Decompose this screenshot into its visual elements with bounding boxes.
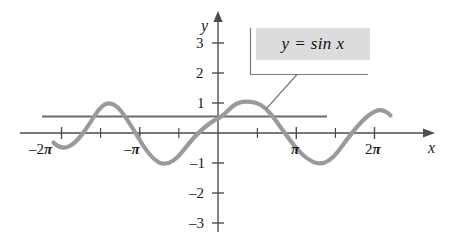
y-tick-label-3: 3 [196, 36, 204, 51]
y-axis-label: y [201, 18, 208, 34]
y-tick-label-minus-3: –3 [189, 216, 204, 231]
x-tick-label-2pi: 2π [365, 142, 381, 157]
equation-callout-text: y = sin x [282, 34, 345, 54]
equation-callout-box: y = sin x [256, 28, 370, 60]
x-tick-minus-2pi-symbol: π [44, 141, 52, 157]
y-tick-label-minus-2: –2 [189, 186, 204, 201]
x-tick-minus-pi-symbol: π [132, 141, 140, 157]
plot-canvas [0, 0, 459, 246]
x-axis-label: x [428, 140, 435, 156]
x-tick-label-pi: π [291, 142, 299, 157]
x-tick-label-minus-pi: –π [124, 142, 140, 157]
y-tick-label-minus-1: –1 [190, 156, 205, 171]
x-tick-label-minus-2pi: –2π [29, 142, 52, 157]
sine-function-figure: y = sin x y x 3 2 1 –1 –2 –3 –2π –π π 2π [0, 0, 459, 246]
x-tick-2pi-number: 2 [365, 141, 373, 157]
callout-leader-line [266, 75, 297, 110]
x-tick-minus-2pi-number: –2 [29, 141, 44, 157]
y-tick-label-1: 1 [197, 96, 205, 111]
x-tick-minus-pi-sign: – [124, 141, 132, 157]
x-tick-2pi-symbol: π [373, 141, 381, 157]
y-tick-label-2: 2 [196, 66, 204, 81]
